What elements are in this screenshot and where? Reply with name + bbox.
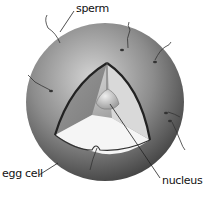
sperm-leader-line [60, 11, 74, 32]
fertilization-diagram: sperm egg cell nucleus [0, 0, 206, 199]
sperm-label: sperm [76, 2, 109, 15]
nucleus-label: nucleus [162, 174, 202, 187]
egg-cell-label: egg cell [2, 167, 43, 180]
